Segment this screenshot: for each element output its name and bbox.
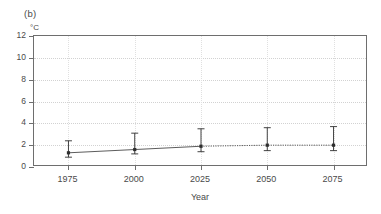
panel-label: (b) (24, 8, 37, 19)
y-axis-tick-label: 10 (2, 53, 26, 62)
plot-area (33, 35, 367, 166)
error-bar (198, 129, 205, 152)
y-axis-tick-label: 0 (2, 162, 26, 171)
error-bar (330, 127, 337, 151)
y-axis-tick-label: 12 (2, 31, 26, 40)
data-series-errorbars (34, 36, 368, 167)
data-point-marker (133, 148, 136, 151)
data-point-marker (332, 144, 335, 147)
x-axis-tick-label: 2075 (309, 175, 357, 184)
y-axis-tick-label: 4 (2, 118, 26, 127)
y-axis-unit-label: °C (30, 23, 39, 32)
x-axis-tick-label: 1975 (43, 175, 91, 184)
data-point-marker (67, 151, 70, 154)
y-axis-tick-label: 8 (2, 75, 26, 84)
y-axis-tick-label: 2 (2, 140, 26, 149)
error-bar (65, 141, 72, 157)
y-axis-tick-label: 6 (2, 97, 26, 106)
figure-panel-b: (b) °C 024681012 19752000202520502075 Ye… (0, 0, 381, 214)
x-axis-tick-label: 2025 (176, 175, 224, 184)
data-point-marker (266, 144, 269, 147)
error-bar (264, 128, 271, 151)
data-point-marker (199, 145, 202, 148)
x-axis-tick-label: 2000 (110, 175, 158, 184)
y-axis-tick (29, 167, 34, 168)
x-axis-title: Year (170, 192, 230, 202)
x-axis-tick-label: 2050 (242, 175, 290, 184)
